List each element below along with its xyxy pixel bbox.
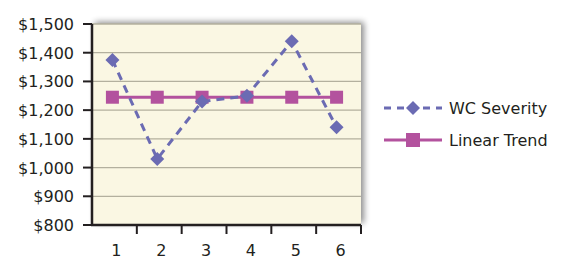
data-point-square bbox=[151, 91, 164, 104]
y-tick-label: $1,100 bbox=[18, 130, 74, 149]
y-tick-label: $1,500 bbox=[18, 15, 74, 34]
data-point-square bbox=[285, 91, 298, 104]
legend-item-linear-trend: Linear Trend bbox=[384, 124, 548, 156]
data-point-square bbox=[106, 91, 119, 104]
y-tick-label: $800 bbox=[33, 216, 74, 235]
legend-label: Linear Trend bbox=[449, 131, 548, 150]
solid-square-line-icon bbox=[384, 130, 442, 150]
x-tick-label: 4 bbox=[246, 241, 256, 260]
data-point-square bbox=[330, 91, 343, 104]
legend: WC Severity Linear Trend bbox=[384, 92, 548, 156]
y-tick-label: $1,300 bbox=[18, 72, 74, 91]
y-tick-label: $1,000 bbox=[18, 159, 74, 178]
x-tick-label: 6 bbox=[335, 241, 345, 260]
x-axis-tick-labels: 123456 bbox=[111, 241, 345, 260]
y-tick-label: $1,400 bbox=[18, 44, 74, 63]
legend-label: WC Severity bbox=[449, 99, 547, 118]
dashed-diamond-line-icon bbox=[384, 98, 442, 118]
legend-item-wc-severity: WC Severity bbox=[384, 92, 548, 124]
plot-area bbox=[92, 24, 361, 225]
y-tick-label: $900 bbox=[33, 187, 74, 206]
x-tick-label: 1 bbox=[111, 241, 121, 260]
chart: $800$900$1,000$1,100$1,200$1,300$1,400$1… bbox=[0, 0, 567, 276]
x-tick-label: 2 bbox=[156, 241, 166, 260]
y-tick-label: $1,200 bbox=[18, 101, 74, 120]
y-axis-tick-labels: $800$900$1,000$1,100$1,200$1,300$1,400$1… bbox=[18, 15, 74, 235]
x-tick-label: 5 bbox=[291, 241, 301, 260]
x-tick-label: 3 bbox=[201, 241, 211, 260]
